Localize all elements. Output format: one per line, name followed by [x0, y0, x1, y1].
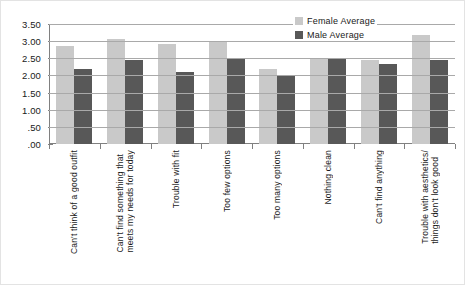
- x-axis-category-text: Can't find something that meets my needs…: [115, 150, 135, 253]
- y-axis-tick-label: 2.50: [22, 53, 41, 64]
- bar: [328, 59, 346, 144]
- x-axis-category-label: Too few options: [201, 150, 252, 282]
- bar: [361, 60, 379, 144]
- gridline: [49, 41, 455, 42]
- x-axis-tick-mark: [303, 144, 304, 149]
- gridline: [49, 127, 455, 128]
- legend-item-label: Female Average: [307, 16, 375, 26]
- y-axis-tick-label: 3.00: [22, 36, 41, 47]
- x-axis-category-label: Can't find anything: [354, 150, 405, 282]
- gridline: [49, 110, 455, 111]
- legend-swatch-icon: [295, 31, 303, 39]
- gridline: [49, 24, 455, 25]
- plot-area: [49, 24, 455, 144]
- x-axis-category-label: Can't find something that meets my needs…: [100, 150, 151, 282]
- x-axis-ticks: [49, 144, 455, 149]
- x-axis-category-label: Trouble with aesthetics/ things don't lo…: [404, 150, 455, 282]
- x-axis-category-label: Trouble with fit: [151, 150, 202, 282]
- bar: [125, 60, 143, 144]
- legend-swatch-icon: [295, 17, 303, 25]
- x-axis-category-label: Can't think of a good outfit: [49, 150, 100, 282]
- x-axis-tick-mark: [455, 144, 456, 149]
- x-axis-tick-mark: [201, 144, 202, 149]
- y-axis: 3.503.002.502.001.501.00.50.00: [5, 24, 47, 144]
- x-axis-category-text: Nothing clean: [323, 150, 333, 205]
- y-axis-tick-label: .50: [27, 121, 41, 132]
- x-axis-tick-mark: [100, 144, 101, 149]
- gridline: [49, 58, 455, 59]
- y-axis-tick-label: .00: [27, 139, 41, 150]
- x-axis-category-text: Can't find anything: [374, 150, 384, 224]
- bar: [259, 69, 277, 144]
- x-axis-tick-mark: [49, 144, 50, 149]
- bar: [430, 60, 448, 144]
- x-axis-tick-mark: [151, 144, 152, 149]
- gridline: [49, 75, 455, 76]
- x-axis-labels: Can't think of a good outfitCan't find s…: [49, 150, 455, 282]
- x-axis-category-text: Can't think of a good outfit: [69, 150, 79, 254]
- y-axis-tick-label: 1.00: [22, 104, 41, 115]
- legend-item: Male Average: [295, 30, 375, 40]
- x-axis-category-label: Nothing clean: [303, 150, 354, 282]
- x-axis-category-label: Too many options: [252, 150, 303, 282]
- bar: [56, 46, 74, 144]
- x-axis-tick-mark: [354, 144, 355, 149]
- x-axis-category-text: Trouble with fit: [171, 150, 181, 208]
- x-axis-category-text: Too few options: [222, 150, 232, 212]
- x-axis-category-text: Too many options: [272, 150, 282, 220]
- x-axis-tick-mark: [404, 144, 405, 149]
- y-axis-tick-label: 3.50: [22, 19, 41, 30]
- chart-legend: Female AverageMale Average: [293, 15, 377, 41]
- legend-item: Female Average: [295, 16, 375, 26]
- y-axis-tick-label: 1.50: [22, 87, 41, 98]
- y-axis-tick-label: 2.00: [22, 70, 41, 81]
- x-axis-category-text: Trouble with aesthetics/ things don't lo…: [420, 150, 440, 244]
- bar-chart: 3.503.002.502.001.501.00.50.00 Can't thi…: [0, 0, 465, 285]
- bar: [310, 59, 328, 144]
- bar: [176, 72, 194, 144]
- gridline: [49, 93, 455, 94]
- bar: [227, 59, 245, 144]
- bar: [74, 69, 92, 144]
- legend-item-label: Male Average: [307, 30, 364, 40]
- x-axis-tick-mark: [252, 144, 253, 149]
